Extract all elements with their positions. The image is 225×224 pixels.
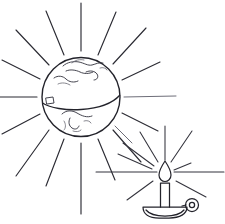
candle-ray-short: [174, 163, 191, 170]
globe-landmass-south-tail: [69, 118, 79, 129]
globe-ray: [16, 130, 49, 176]
globe-landmass-south-detail: [64, 121, 66, 130]
globe-ray: [98, 139, 115, 180]
globe-ray: [2, 60, 40, 79]
globe-ray: [46, 139, 64, 186]
globe-west-marking: [46, 97, 54, 104]
globe-ray: [122, 113, 158, 131]
globe-ray: [113, 28, 146, 64]
globe-ray: [2, 114, 40, 134]
candle-holder-ring: [186, 199, 199, 212]
globe-ray: [46, 11, 64, 55]
candle-ray: [118, 154, 152, 169]
globe-landmass-northwest: [54, 76, 78, 82]
candle-flame: [159, 161, 171, 182]
drawing-canvas: Globe radiating light beside a lit candl…: [0, 0, 225, 224]
globe-landmass-south: [62, 111, 92, 117]
candle-holder-ring-inner: [189, 202, 194, 207]
globe-landmass-north-streak: [58, 83, 70, 85]
globe-ray: [16, 30, 49, 65]
candle-ray: [127, 181, 153, 200]
globe-ray-horizontal-right: [124, 96, 176, 97]
globe-island-small: [100, 68, 107, 70]
globe: [42, 58, 120, 137]
globe-landmass-north: [63, 62, 103, 66]
globe-landmass-north-detail: [66, 70, 93, 74]
globe-outline: [42, 58, 120, 137]
candle-ray: [171, 131, 192, 162]
candle-holder-rim: [146, 210, 184, 216]
globe-ray: [122, 62, 160, 80]
globe-landmass-south-tip: [73, 130, 81, 132]
candle-ray: [176, 181, 206, 197]
globe-ray: [98, 12, 116, 55]
candle-body: [161, 183, 170, 207]
candle: [143, 161, 199, 218]
line-drawing: [0, 0, 225, 224]
globe-landmass-south-speck: [84, 121, 91, 123]
